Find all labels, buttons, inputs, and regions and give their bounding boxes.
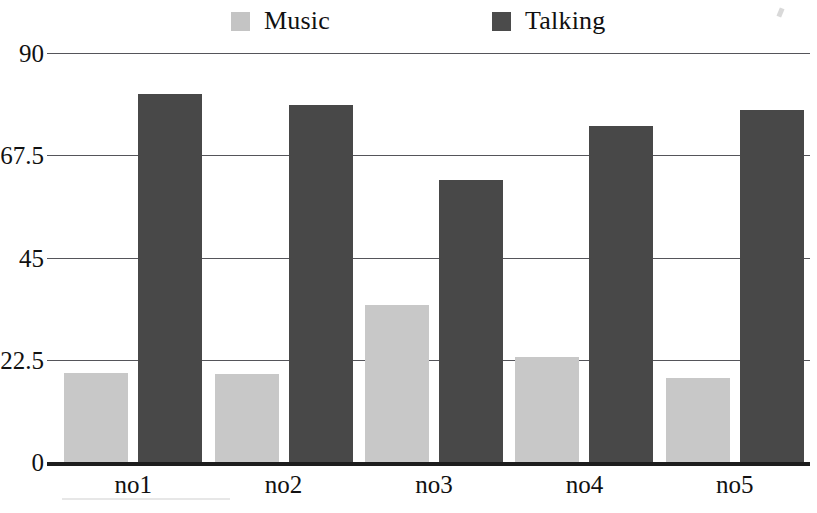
x-axis-tick-label-no5: no5 (660, 472, 810, 497)
music-swatch-icon (231, 12, 250, 31)
legend-entry-music: Music (231, 4, 330, 38)
bar-music-no3 (365, 305, 429, 462)
legend-label-talking: Talking (525, 8, 605, 34)
chart-legend: Music Talking (0, 4, 817, 42)
gridline (58, 53, 810, 54)
x-axis-labels: no1no2no3no4no5 (58, 472, 810, 512)
y-axis-tick-label: 0 (32, 450, 45, 475)
x-axis-tick-label-no4: no4 (509, 472, 659, 497)
y-axis-tick (47, 360, 58, 361)
legend-entry-talking: Talking (492, 4, 605, 38)
bar-music-no5 (666, 378, 730, 462)
x-axis-line (47, 462, 810, 466)
bar-chart: Music Talking 022.54567.590 no1no2no3no4… (0, 0, 817, 513)
bar-talking-no1 (138, 94, 202, 462)
y-axis-tick (47, 258, 58, 259)
y-axis-tick-label: 67.5 (0, 143, 44, 168)
bar-music-no1 (64, 373, 128, 462)
y-axis-labels: 022.54567.590 (0, 0, 44, 513)
bar-talking-no5 (740, 110, 804, 462)
x-axis-tick-label-no3: no3 (359, 472, 509, 497)
bar-music-no2 (215, 374, 279, 462)
bar-talking-no2 (289, 105, 353, 462)
scan-artifact (62, 498, 230, 500)
x-axis-tick-label-no2: no2 (208, 472, 358, 497)
talking-swatch-icon (492, 12, 511, 31)
bar-talking-no4 (589, 126, 653, 462)
y-axis-tick-label: 22.5 (0, 348, 44, 373)
plot-area (58, 53, 810, 462)
x-axis-tick-label-no1: no1 (58, 472, 208, 497)
bar-music-no4 (515, 357, 579, 462)
y-axis-tick (47, 53, 58, 54)
bar-talking-no3 (439, 180, 503, 462)
y-axis-tick (47, 155, 58, 156)
legend-label-music: Music (264, 8, 330, 34)
y-axis-tick-label: 45 (19, 246, 44, 271)
y-axis-tick-label: 90 (19, 41, 44, 66)
